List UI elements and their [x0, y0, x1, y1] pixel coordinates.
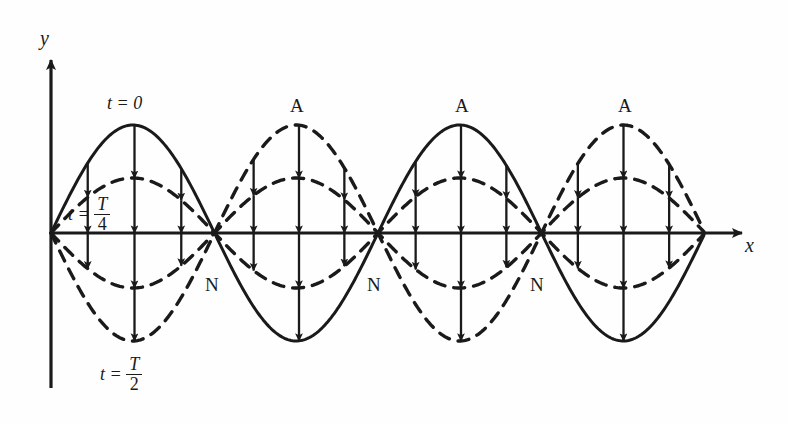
axis-label-y: y — [40, 28, 49, 48]
label-t-quarter-prefix: t = — [68, 204, 90, 224]
label-t-half: t = T 2 — [100, 356, 142, 395]
label-t-zero-text: t = 0 — [107, 93, 142, 113]
label-t-quarter: t = T 4 — [68, 196, 110, 235]
fraction-t-over-2: T 2 — [126, 355, 142, 394]
axis-label-x: x — [745, 235, 754, 255]
fraction-denominator: 2 — [126, 375, 142, 394]
antinode-3: A — [618, 96, 632, 115]
antinode-2: A — [455, 96, 469, 115]
fraction-numerator: T — [94, 195, 110, 215]
node-1: N — [205, 275, 219, 294]
label-t-half-prefix: t = — [100, 364, 122, 384]
node-3: N — [530, 275, 544, 294]
fraction-t-over-4: T 4 — [94, 195, 110, 234]
axes-group — [51, 60, 742, 388]
fraction-numerator: T — [126, 355, 142, 375]
node-2: N — [367, 275, 381, 294]
label-t-zero: t = 0 — [107, 94, 142, 112]
antinode-1: A — [290, 96, 304, 115]
fraction-denominator: 4 — [94, 215, 110, 234]
standing-wave-figure: t = 0 t = T 4 t = T 2 y x AAANNN — [0, 0, 788, 424]
